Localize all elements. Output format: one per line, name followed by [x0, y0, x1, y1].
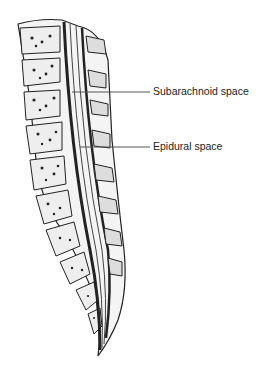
label-epidural-space: Epidural space: [153, 140, 222, 152]
label-subarachnoid-space: Subarachnoid space: [153, 85, 249, 97]
spine-illustration: [0, 0, 265, 374]
